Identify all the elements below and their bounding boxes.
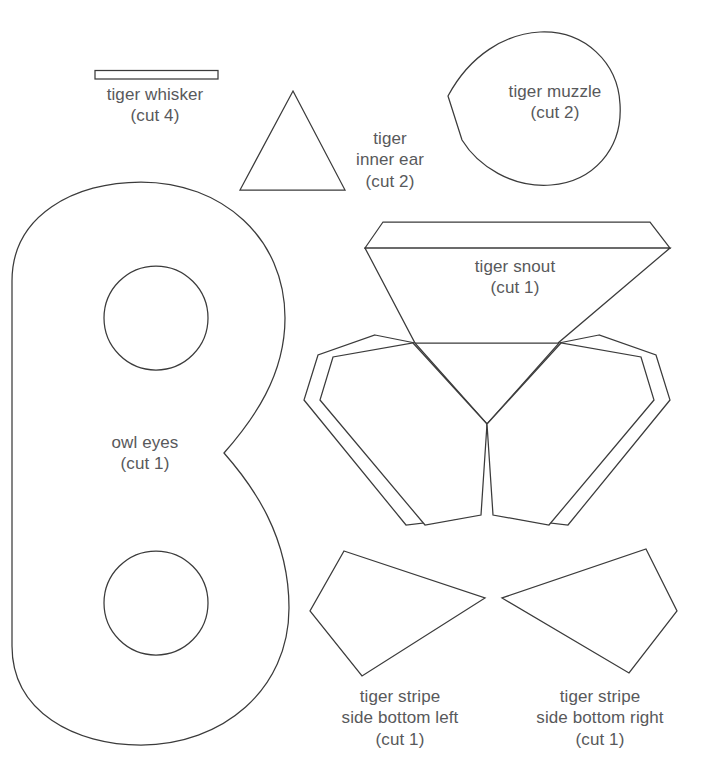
label-tiger-stripe-side-bottom-left-line2: side bottom left bbox=[300, 707, 500, 728]
label-tiger-snout: tiger snout (cut 1) bbox=[415, 256, 615, 299]
label-tiger-inner-ear-line2: inner ear bbox=[320, 149, 460, 170]
label-tiger-inner-ear-line1: tiger bbox=[320, 128, 460, 149]
shape-tiger-stripe-side-bottom-left bbox=[310, 551, 485, 676]
label-owl-eyes: owl eyes (cut 1) bbox=[55, 432, 235, 475]
label-tiger-muzzle: tiger muzzle (cut 2) bbox=[455, 81, 655, 124]
label-owl-eyes-name: owl eyes bbox=[55, 432, 235, 453]
label-tiger-whisker-cut: (cut 4) bbox=[30, 105, 280, 126]
shape-tiger-snout-strip bbox=[365, 222, 670, 248]
label-tiger-inner-ear-cut: (cut 2) bbox=[320, 171, 460, 192]
shape-tiger-stripe-side-bottom-right bbox=[502, 549, 677, 673]
label-tiger-stripe-side-bottom-right-line1: tiger stripe bbox=[500, 686, 700, 707]
label-tiger-muzzle-cut: (cut 2) bbox=[455, 102, 655, 123]
label-tiger-stripe-side-bottom-left: tiger stripe side bottom left (cut 1) bbox=[300, 686, 500, 750]
label-tiger-muzzle-name: tiger muzzle bbox=[455, 81, 655, 102]
label-tiger-whisker: tiger whisker (cut 4) bbox=[30, 84, 280, 127]
label-tiger-stripe-side-bottom-left-line1: tiger stripe bbox=[300, 686, 500, 707]
label-tiger-whisker-name: tiger whisker bbox=[30, 84, 280, 105]
shape-owl-eye-hole-bottom bbox=[104, 551, 208, 655]
shape-tiger-whisker bbox=[95, 71, 218, 80]
shape-owl-eye-hole-top bbox=[104, 266, 208, 370]
label-tiger-stripe-side-bottom-right-line2: side bottom right bbox=[500, 707, 700, 728]
label-tiger-snout-cut: (cut 1) bbox=[415, 277, 615, 298]
pattern-sheet: tiger whisker (cut 4) tiger inner ear (c… bbox=[0, 0, 702, 776]
label-tiger-inner-ear: tiger inner ear (cut 2) bbox=[320, 128, 460, 192]
label-tiger-stripe-side-bottom-right: tiger stripe side bottom right (cut 1) bbox=[500, 686, 700, 750]
label-tiger-stripe-side-bottom-left-cut: (cut 1) bbox=[300, 729, 500, 750]
label-tiger-snout-name: tiger snout bbox=[415, 256, 615, 277]
label-tiger-stripe-side-bottom-right-cut: (cut 1) bbox=[500, 729, 700, 750]
label-owl-eyes-cut: (cut 1) bbox=[55, 453, 235, 474]
